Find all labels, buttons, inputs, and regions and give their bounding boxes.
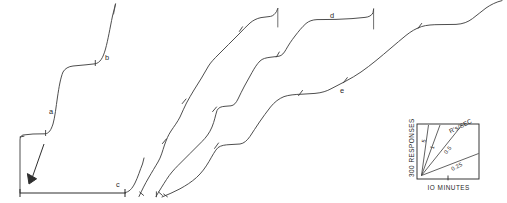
cumulative-record-figure: a b c d e 5 1 0.5 0.25 R's xyxy=(0,0,507,203)
trace-record-3 xyxy=(139,9,278,197)
inset-y-axis-label: 300 RESPONSES xyxy=(408,118,415,177)
segment-label-d: d xyxy=(330,11,334,20)
segment-label-group: a b c d e xyxy=(49,11,344,189)
inset-rate-label-0-5: 0.5 xyxy=(443,145,453,155)
inset-rate-label-5: 5 xyxy=(420,139,426,143)
trace-record-2 xyxy=(125,158,144,193)
inset-x-axis-label: IO MINUTES xyxy=(428,184,470,191)
inset-ray-1 xyxy=(422,125,441,176)
inset-rate-label-0-25: 0.25 xyxy=(450,161,463,172)
segment-label-a: a xyxy=(49,107,54,116)
trace-record-4 xyxy=(156,9,374,197)
record-canvas: a b c d e 5 1 0.5 0.25 R's xyxy=(0,0,507,203)
segment-label-c: c xyxy=(116,180,120,189)
baseline-axis xyxy=(20,189,126,197)
segment-label-b: b xyxy=(105,53,109,62)
inset-rate-units-label: R's/SEC xyxy=(448,117,473,135)
segment-label-e: e xyxy=(340,86,344,95)
trace-record-1 xyxy=(20,4,116,193)
rate-scale-inset: 5 1 0.5 0.25 R's/SEC 300 RESPONSES IO MI… xyxy=(408,117,479,191)
event-arrow-icon xyxy=(27,144,44,184)
